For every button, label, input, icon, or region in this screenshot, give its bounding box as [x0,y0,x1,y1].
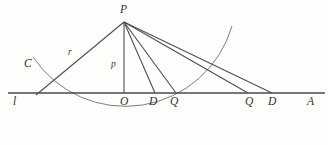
segment-label-p: p [111,60,116,70]
geometry-diagram-svg [0,0,328,145]
point-label-q-near: Q [170,96,178,108]
point-label-c: C [24,58,32,70]
geometry-figure: P C l O D Q Q D A r p [0,0,328,145]
ray-p-to-d-far [124,22,272,93]
point-label-o: O [120,96,128,108]
line-label-l: l [13,96,16,108]
point-label-a: A [307,96,314,108]
point-label-d-near: D [149,96,157,108]
point-label-p: P [120,4,127,16]
segment-label-r: r [68,48,72,58]
point-label-d-far: D [268,96,276,108]
point-label-q-far: Q [245,96,253,108]
